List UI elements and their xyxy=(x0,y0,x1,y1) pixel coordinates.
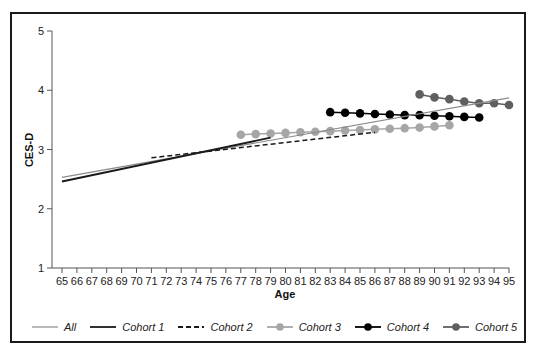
x-tick-label: 94 xyxy=(488,275,500,287)
data-point-marker xyxy=(237,130,246,139)
data-point-marker xyxy=(415,123,424,132)
series-line-cohort-1 xyxy=(62,138,271,182)
data-point-marker xyxy=(386,124,395,133)
legend-item-cohort-2: Cohort 2 xyxy=(176,321,252,333)
legend-label: Cohort 4 xyxy=(387,321,429,333)
legend-swatch-icon xyxy=(176,322,206,332)
legend-item-cohort-1: Cohort 1 xyxy=(88,321,164,333)
legend-label: Cohort 3 xyxy=(299,321,341,333)
legend-item-cohort-5: Cohort 5 xyxy=(441,321,517,333)
y-tick-label: 3 xyxy=(38,144,44,156)
x-tick-label: 86 xyxy=(369,275,381,287)
series-line-cohort-2 xyxy=(151,132,375,157)
x-tick-label: 67 xyxy=(86,275,98,287)
x-tick-label: 95 xyxy=(503,275,515,287)
x-tick-label: 79 xyxy=(264,275,276,287)
legend-swatch-icon xyxy=(441,322,471,332)
x-tick-label: 71 xyxy=(145,275,157,287)
data-point-marker xyxy=(430,122,439,131)
x-tick-label: 85 xyxy=(354,275,366,287)
data-point-marker xyxy=(445,95,454,104)
data-point-marker xyxy=(281,129,290,138)
data-point-marker xyxy=(475,113,484,122)
data-point-marker xyxy=(326,108,335,117)
data-point-marker xyxy=(415,90,424,99)
legend-label: Cohort 5 xyxy=(475,321,517,333)
x-tick-label: 90 xyxy=(428,275,440,287)
legend-swatch-icon xyxy=(30,322,60,332)
legend: AllCohort 1Cohort 2Cohort 3Cohort 4Cohor… xyxy=(30,319,517,335)
data-point-marker xyxy=(371,110,380,119)
data-point-marker xyxy=(445,112,454,121)
x-tick-label: 84 xyxy=(339,275,351,287)
data-point-marker xyxy=(266,129,275,138)
series-layer xyxy=(62,90,513,181)
data-point-marker xyxy=(460,97,469,106)
x-tick-label: 88 xyxy=(399,275,411,287)
x-tick-label: 92 xyxy=(458,275,470,287)
x-tick-label: 76 xyxy=(220,275,232,287)
x-tick-label: 89 xyxy=(413,275,425,287)
series-line-all xyxy=(62,98,509,177)
data-point-marker xyxy=(430,111,439,120)
x-tick-label: 87 xyxy=(384,275,396,287)
data-point-marker xyxy=(505,101,514,110)
legend-item-all: All xyxy=(30,321,76,333)
data-point-marker xyxy=(400,124,409,133)
x-tick-label: 75 xyxy=(205,275,217,287)
x-tick-label: 73 xyxy=(175,275,187,287)
legend-swatch-icon xyxy=(353,322,383,332)
x-tick-label: 93 xyxy=(473,275,485,287)
x-tick-label: 72 xyxy=(160,275,172,287)
x-tick-label: 80 xyxy=(279,275,291,287)
legend-swatch-icon xyxy=(88,322,118,332)
x-tick-label: 78 xyxy=(250,275,262,287)
data-point-marker xyxy=(326,127,335,136)
data-point-marker xyxy=(460,113,469,122)
y-tick-label: 5 xyxy=(38,25,44,37)
legend-item-cohort-4: Cohort 4 xyxy=(353,321,429,333)
y-tick-label: 2 xyxy=(38,203,44,215)
x-tick-label: 77 xyxy=(235,275,247,287)
legend-swatch-icon xyxy=(265,322,295,332)
x-tick-label: 83 xyxy=(324,275,336,287)
x-tick-label: 82 xyxy=(309,275,321,287)
x-axis-title: Age xyxy=(275,288,296,300)
axes: 1234565666768697071727374757677787980818… xyxy=(38,25,515,287)
data-point-marker xyxy=(341,108,350,117)
legend-label: All xyxy=(64,321,76,333)
data-point-marker xyxy=(400,111,409,120)
data-point-marker xyxy=(386,110,395,119)
data-point-marker xyxy=(445,121,454,130)
data-point-marker xyxy=(415,111,424,120)
x-tick-label: 81 xyxy=(294,275,306,287)
x-tick-label: 91 xyxy=(443,275,455,287)
data-point-marker xyxy=(356,109,365,118)
y-tick-label: 4 xyxy=(38,84,44,96)
x-tick-label: 65 xyxy=(56,275,68,287)
y-tick-label: 1 xyxy=(38,262,44,274)
legend-label: Cohort 2 xyxy=(210,321,252,333)
x-tick-label: 69 xyxy=(115,275,127,287)
legend-label: Cohort 1 xyxy=(122,321,164,333)
x-tick-label: 74 xyxy=(190,275,202,287)
data-point-marker xyxy=(430,93,439,102)
y-axis-title: CES-D xyxy=(23,133,35,167)
legend-item-cohort-3: Cohort 3 xyxy=(265,321,341,333)
line-chart: 1234565666768697071727374757677787980818… xyxy=(0,0,539,360)
x-tick-label: 68 xyxy=(101,275,113,287)
data-point-marker xyxy=(251,130,260,139)
x-tick-label: 66 xyxy=(71,275,83,287)
x-tick-label: 70 xyxy=(130,275,142,287)
data-point-marker xyxy=(356,126,365,135)
